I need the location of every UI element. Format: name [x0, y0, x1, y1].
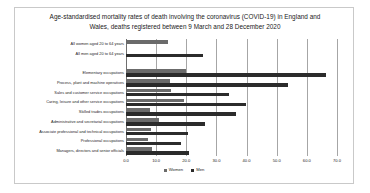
category-label: Managers, directors and senior officials: [56, 149, 124, 153]
legend-swatch-icon: [191, 169, 194, 172]
bar-men: [126, 103, 246, 106]
bar-men: [126, 132, 188, 135]
x-axis-tick-labels: 0.010.020.030.040.050.060.070.0: [126, 158, 337, 166]
category-label: Associate professional and technical occ…: [39, 130, 124, 134]
category-label: Administrative and secretarial occupatio…: [51, 120, 124, 124]
x-tick-label: 10.0: [152, 158, 160, 163]
category-row: [126, 59, 337, 69]
chart-title-line-1: Age-standardised mortality rates of deat…: [25, 12, 345, 22]
x-tick-label: 70.0: [333, 158, 341, 163]
x-tick-label: 60.0: [303, 158, 311, 163]
x-tick-label: 50.0: [273, 158, 281, 163]
category-row: Caring, leisure and other service occupa…: [126, 98, 337, 108]
category-row: Professional occupations: [126, 137, 337, 147]
bar-men: [126, 112, 236, 115]
x-tick-label: 0.0: [123, 158, 129, 163]
x-tick-label: 20.0: [182, 158, 190, 163]
legend-label: Men: [196, 168, 204, 172]
legend-item[interactable]: Women: [164, 168, 184, 172]
category-row: Process, plant and machine operatives: [126, 78, 337, 88]
legend-swatch-icon: [164, 169, 167, 172]
chart-title-line-2: Wales, deaths registered between 9 March…: [25, 22, 345, 32]
bar-men: [126, 151, 189, 154]
bar-women: [126, 99, 184, 102]
x-tick-label: 30.0: [212, 158, 220, 163]
category-row: Associate professional and technical occ…: [126, 127, 337, 137]
chart-title: Age-standardised mortality rates of deat…: [25, 12, 345, 32]
category-label: Process, plant and machine operatives: [57, 81, 124, 85]
bar-women: [126, 79, 170, 82]
bar-women: [126, 69, 186, 72]
bar-men: [126, 142, 181, 145]
category-row: All women aged 20 to 64 years: [126, 39, 337, 49]
bar-women: [126, 138, 148, 141]
bar-women: [126, 40, 168, 43]
plot-area: All women aged 20 to 64 yearsAll men age…: [126, 39, 337, 156]
bar-men: [126, 93, 229, 96]
bar-men: [126, 122, 205, 125]
bar-men: [126, 54, 203, 57]
category-row: Skilled trades occupations: [126, 107, 337, 117]
category-label: Caring, leisure and other service occupa…: [46, 100, 124, 104]
bar-women: [126, 128, 151, 131]
bar-women: [126, 147, 152, 150]
legend-item[interactable]: Men: [191, 168, 204, 172]
category-label: Skilled trades occupations: [79, 110, 124, 114]
bar-women: [126, 108, 150, 111]
category-label: Sales and customer service occupations: [54, 91, 124, 95]
legend-label: Women: [169, 168, 183, 172]
chart-legend: WomenMen: [15, 168, 353, 172]
category-row: Elementary occupations: [126, 68, 337, 78]
category-row: All men aged 20 to 64 years: [126, 49, 337, 59]
bar-women: [126, 89, 171, 92]
category-label: Professional occupations: [81, 139, 124, 143]
bar-women: [126, 118, 159, 121]
category-row: Sales and customer service occupations: [126, 88, 337, 98]
bar-men: [126, 73, 326, 76]
x-tick-label: 40.0: [243, 158, 251, 163]
gridline-70-0: [337, 39, 338, 156]
category-label: Elementary occupations: [82, 71, 124, 75]
category-row: Managers, directors and senior officials: [126, 146, 337, 156]
category-row: Administrative and secretarial occupatio…: [126, 117, 337, 127]
category-label: All women aged 20 to 64 years: [71, 42, 124, 46]
category-label: All men aged 20 to 64 years: [76, 52, 124, 56]
chart-card: Age-standardised mortality rates of deat…: [14, 7, 354, 184]
bar-men: [126, 83, 288, 86]
